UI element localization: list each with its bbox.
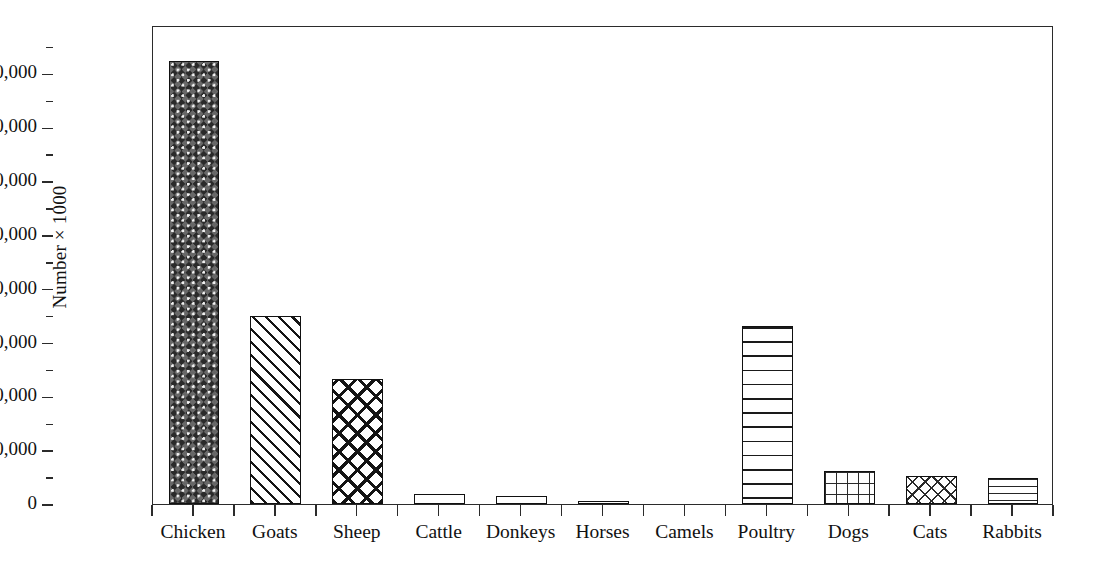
bars-container	[153, 27, 1052, 504]
bar-slot-rabbits	[988, 27, 1039, 504]
x-tick-rabbits	[1011, 505, 1012, 516]
x-axis-label-cattle: Cattle	[398, 521, 480, 543]
y-tick-label: 30,000	[0, 331, 37, 353]
bar-dogs[interactable]	[824, 471, 875, 504]
x-tick-boundary-3	[397, 505, 398, 516]
y-tick-mark	[42, 504, 53, 505]
y-tick-label: 50,000	[0, 223, 37, 245]
bar-slot-camels	[660, 27, 711, 504]
bar-horses[interactable]	[578, 501, 629, 504]
y-tick-label: 0	[28, 492, 38, 514]
x-tick-sheep	[356, 505, 357, 516]
y-tick-mark	[42, 397, 53, 398]
bar-slot-sheep	[332, 27, 383, 504]
x-axis-label-rabbits: Rabbits	[971, 521, 1053, 543]
y-tick-mark	[46, 208, 53, 209]
x-tick-cats	[929, 505, 930, 516]
x-axis-label-cats: Cats	[889, 521, 971, 543]
bar-chart-figure: Number × 1000 010,00020,00030,00040,0005…	[0, 0, 1106, 568]
y-tick-label: 60,000	[0, 169, 37, 191]
x-axis-label-camels: Camels	[643, 521, 725, 543]
bar-slot-cattle	[414, 27, 465, 504]
x-tick-chicken	[192, 505, 193, 516]
bar-rabbits[interactable]	[988, 478, 1039, 504]
y-tick-mark	[42, 181, 53, 182]
y-tick-mark	[46, 316, 53, 317]
x-axis-label-dogs: Dogs	[807, 521, 889, 543]
x-axis-label-sheep: Sheep	[316, 521, 398, 543]
bar-chicken[interactable]	[169, 61, 220, 504]
y-axis-title: Number × 1000	[49, 157, 71, 337]
y-tick-mark	[46, 370, 53, 371]
y-tick-mark	[42, 450, 53, 451]
x-axis-label-goats: Goats	[234, 521, 316, 543]
bar-donkeys[interactable]	[496, 496, 547, 504]
y-tick-label: 70,000	[0, 115, 37, 137]
x-axis-label-poultry: Poultry	[725, 521, 807, 543]
x-tick-poultry	[766, 505, 767, 516]
bar-poultry[interactable]	[742, 326, 793, 504]
x-tick-goats	[274, 505, 275, 516]
y-tick-mark	[46, 154, 53, 155]
y-tick-label: 80,000	[0, 61, 37, 83]
x-tick-camels	[684, 505, 685, 516]
y-tick-label: 40,000	[0, 277, 37, 299]
bar-slot-goats	[250, 27, 301, 504]
y-tick-mark	[46, 424, 53, 425]
x-tick-donkeys	[520, 505, 521, 516]
bar-cats[interactable]	[906, 476, 957, 504]
x-tick-boundary-4	[479, 505, 480, 516]
y-tick-mark	[46, 262, 53, 263]
y-tick-label: 10,000	[0, 438, 37, 460]
y-tick-mark	[42, 74, 53, 75]
y-tick-mark	[46, 477, 53, 478]
y-tick-mark	[46, 101, 53, 102]
bar-slot-cats	[906, 27, 957, 504]
bar-goats[interactable]	[250, 316, 301, 504]
x-axis-label-donkeys: Donkeys	[480, 521, 562, 543]
x-tick-cattle	[438, 505, 439, 516]
y-tick-label: 20,000	[0, 384, 37, 406]
x-tick-horses	[602, 505, 603, 516]
x-tick-boundary-1	[233, 505, 234, 516]
x-axis-label-chicken: Chicken	[152, 521, 234, 543]
x-tick-boundary-2	[315, 505, 316, 516]
bar-cattle[interactable]	[414, 494, 465, 504]
y-tick-mark	[42, 289, 53, 290]
x-tick-boundary-6	[643, 505, 644, 516]
x-tick-boundary-10	[970, 505, 971, 516]
y-tick-mark	[42, 128, 53, 129]
plot-area	[152, 26, 1053, 505]
y-tick-mark	[42, 235, 53, 236]
x-tick-boundary-8	[807, 505, 808, 516]
x-tick-boundary-0	[151, 505, 152, 516]
bar-slot-chicken	[169, 27, 220, 504]
bar-slot-dogs	[824, 27, 875, 504]
bar-slot-donkeys	[496, 27, 547, 504]
y-tick-mark	[46, 47, 53, 48]
x-tick-boundary-11	[1052, 505, 1053, 516]
y-tick-mark	[42, 343, 53, 344]
x-tick-boundary-9	[888, 505, 889, 516]
bar-slot-horses	[578, 27, 629, 504]
bar-slot-poultry	[742, 27, 793, 504]
x-axis-label-horses: Horses	[562, 521, 644, 543]
x-tick-dogs	[848, 505, 849, 516]
x-tick-boundary-7	[725, 505, 726, 516]
bar-sheep[interactable]	[332, 379, 383, 504]
x-tick-boundary-5	[561, 505, 562, 516]
